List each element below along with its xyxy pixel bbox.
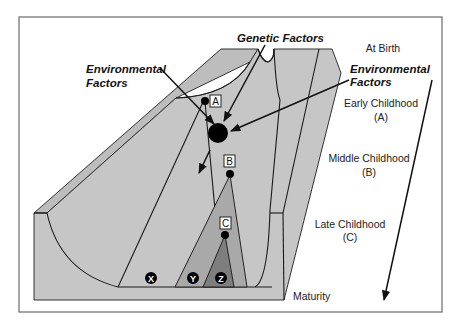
branch-label-b: B: [224, 155, 235, 167]
environmental-factors-right-label-line1: Environmental: [350, 63, 431, 75]
stage-maturity: Maturity: [293, 290, 331, 302]
svg-text:Y: Y: [190, 274, 196, 284]
ball-main: [208, 123, 228, 143]
stage-middle-childhood-code: (B): [362, 166, 376, 178]
svg-text:C: C: [222, 218, 229, 229]
ball-b: [226, 170, 234, 178]
branch-label-a: A: [210, 95, 221, 107]
environmental-factors-right-label-line2: Factors: [350, 76, 392, 88]
stage-late-childhood-code: (C): [343, 231, 358, 243]
outcome-x: X: [145, 272, 157, 284]
svg-text:X: X: [148, 274, 154, 284]
outcome-y: Y: [187, 272, 199, 284]
stage-early-childhood-code: (A): [374, 111, 388, 123]
svg-text:B: B: [226, 156, 233, 167]
outcome-z: Z: [215, 272, 227, 284]
stage-at-birth: At Birth: [366, 42, 401, 54]
svg-text:Z: Z: [218, 274, 224, 284]
ball-c: [221, 231, 229, 239]
environmental-factors-left-label-line2: Factors: [86, 77, 128, 89]
development-landscape-diagram: A B C X Y Z Genetic Factors Environmenta…: [0, 0, 467, 327]
stage-late-childhood: Late Childhood: [315, 218, 386, 230]
environmental-factors-left-label-line1: Environmental: [86, 63, 167, 75]
branch-label-c: C: [220, 217, 231, 229]
svg-text:A: A: [212, 96, 219, 107]
stage-early-childhood: Early Childhood: [344, 97, 418, 109]
stage-middle-childhood: Middle Childhood: [328, 152, 409, 164]
ball-a: [201, 97, 209, 105]
genetic-factors-label: Genetic Factors: [237, 32, 324, 44]
